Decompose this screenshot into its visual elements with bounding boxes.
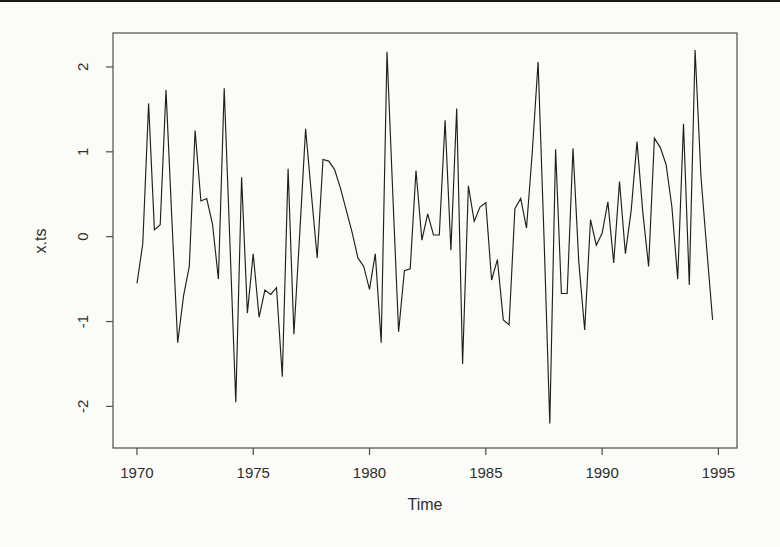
series-line	[137, 50, 713, 423]
y-tick-label: 2	[74, 63, 91, 71]
x-tick-label: 1995	[702, 464, 735, 481]
x-tick-label: 1980	[353, 464, 386, 481]
x-axis-title: Time	[408, 496, 443, 513]
y-tick-label: -1	[74, 315, 91, 328]
y-tick-label: 0	[74, 233, 91, 241]
x-tick-label: 1985	[469, 464, 502, 481]
x-tick-label: 1970	[120, 464, 153, 481]
y-axis-title: x.ts	[32, 229, 49, 254]
y-tick-label: 1	[74, 148, 91, 156]
x-tick-label: 1975	[237, 464, 270, 481]
y-tick-label: -2	[74, 400, 91, 413]
plot-frame	[113, 33, 737, 448]
figure-container: 210-1-2199519901985198019751970 Time x.t…	[0, 0, 780, 547]
timeseries-plot: 210-1-2199519901985198019751970 Time x.t…	[0, 0, 780, 547]
x-tick-label: 1990	[585, 464, 618, 481]
